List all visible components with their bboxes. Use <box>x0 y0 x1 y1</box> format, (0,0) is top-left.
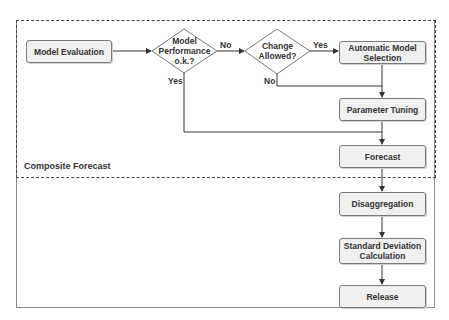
decision-line: Model <box>152 36 217 46</box>
edge-label-change-yes: Yes <box>313 40 328 50</box>
edge-label-change-no: No <box>264 76 275 86</box>
node-automatic-model-selection: Automatic Model Selection <box>339 41 426 64</box>
node-label: Calculation <box>360 251 406 261</box>
node-label: Model Evaluation <box>34 47 104 57</box>
node-model-evaluation: Model Evaluation <box>26 40 112 63</box>
decision-line: Allowed? <box>245 51 310 61</box>
node-label: Forecast <box>365 152 400 162</box>
node-disaggregation: Disaggregation <box>339 192 426 216</box>
node-label: Standard Deviation <box>344 241 421 251</box>
edge-label-performance-no: No <box>220 40 231 50</box>
node-forecast: Forecast <box>339 145 426 168</box>
decision-change: Change Allowed? <box>245 41 310 61</box>
decision-line: Change <box>245 41 310 51</box>
node-label: Release <box>366 292 398 302</box>
node-label: Disaggregation <box>352 199 414 209</box>
node-release: Release <box>339 285 426 308</box>
node-label: Parameter Tuning <box>347 105 419 115</box>
node-parameter-tuning: Parameter Tuning <box>339 98 426 121</box>
decision-performance: Model Performance o.k.? <box>152 36 217 66</box>
decision-line: Performance <box>152 46 217 56</box>
edge-label-performance-yes: Yes <box>168 76 183 86</box>
node-label: Selection <box>364 53 402 63</box>
node-label: Automatic Model <box>348 43 416 53</box>
flowchart-canvas: Composite Forecast Model Evaluation Mode… <box>0 0 449 320</box>
decision-line: o.k.? <box>152 56 217 66</box>
node-standard-deviation-calculation: Standard Deviation Calculation <box>339 238 426 264</box>
